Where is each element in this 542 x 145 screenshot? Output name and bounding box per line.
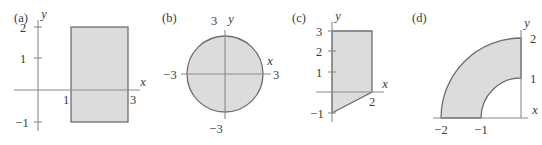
y-axis-name-c: y xyxy=(333,9,341,23)
y-axis-name-b: y xyxy=(226,12,234,26)
panel-d-label: (d) xyxy=(412,11,427,25)
region-quarter-annulus-d xyxy=(441,38,521,118)
y-tick-label-neg1-a: −1 xyxy=(15,116,28,130)
y-tick-label-neg1-c: −1 xyxy=(310,107,323,121)
x-tick-label-neg3-b: −3 xyxy=(163,68,176,82)
y-tick-label-neg3-b: −3 xyxy=(209,122,222,136)
region-quadrilateral-c xyxy=(332,31,372,113)
panel-a-plot: (a) 2 1 −1 1 3 y x xyxy=(0,0,148,145)
x-tick-label-neg2-d: −2 xyxy=(434,123,447,137)
region-rectangle-a xyxy=(71,27,128,122)
panel-b-label: (b) xyxy=(162,11,177,25)
x-tick-label-1-a: 1 xyxy=(63,93,69,107)
x-tick-label-neg1-d: −1 xyxy=(474,123,487,137)
y-tick-label-1-a: 1 xyxy=(20,52,26,66)
x-axis-name-c: x xyxy=(381,77,388,91)
y-axis-name-d: y xyxy=(522,16,530,30)
x-axis-name-b: x xyxy=(266,54,273,68)
y-tick-label-3-b: 3 xyxy=(211,14,217,28)
y-tick-label-1-d: 1 xyxy=(530,72,536,86)
y-tick-label-1-c: 1 xyxy=(316,66,322,80)
x-tick-label-2-c: 2 xyxy=(369,95,375,109)
y-tick-label-2-a: 2 xyxy=(20,21,26,35)
x-axis-name-a: x xyxy=(139,75,146,89)
x-axis-name-d: x xyxy=(531,103,538,117)
panel-c: (c) 3 2 1 −1 2 y x xyxy=(280,0,400,145)
panel-c-plot: (c) 3 2 1 −1 2 y x xyxy=(280,0,400,145)
x-tick-label-3-b: 3 xyxy=(273,68,279,82)
figure-container: (a) 2 1 −1 1 3 y x (b) xyxy=(0,0,542,145)
panel-d-plot: (d) 2 1 −2 −1 y x xyxy=(400,0,542,145)
y-tick-label-3-c: 3 xyxy=(316,25,322,39)
panel-b: (b) 3 −3 −3 3 y x xyxy=(148,0,280,145)
panel-a: (a) 2 1 −1 1 3 y x xyxy=(0,0,148,145)
panel-d: (d) 2 1 −2 −1 y x xyxy=(400,0,542,145)
x-tick-label-3-a: 3 xyxy=(130,93,136,107)
panel-c-label: (c) xyxy=(292,11,306,25)
y-tick-label-2-c: 2 xyxy=(316,45,322,59)
y-axis-name-a: y xyxy=(39,7,47,21)
y-tick-label-2-d: 2 xyxy=(530,32,536,46)
panel-b-plot: (b) 3 −3 −3 3 y x xyxy=(148,0,280,145)
